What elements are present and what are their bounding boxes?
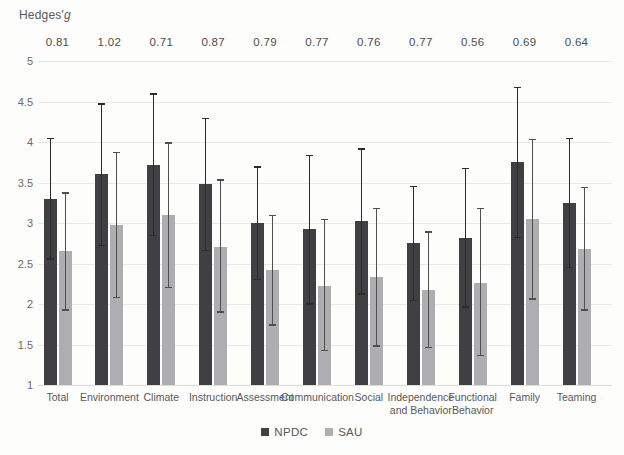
errorbar-npdc-environment [101, 103, 102, 246]
effect-size-value-climate: 0.71 [133, 36, 189, 48]
errorbar-cap-bottom-sau-teaming [581, 309, 588, 311]
errorbar-cap-top-npdc-assessment [254, 166, 261, 168]
errorbar-npdc-assessment [257, 166, 258, 279]
errorbar-sau-total [65, 192, 66, 310]
legend: NPDC SAU [0, 426, 624, 438]
effect-size-value-instruction: 0.87 [185, 36, 241, 48]
errorbar-cap-bottom-npdc-assessment [254, 279, 261, 281]
errorbar-npdc-family [517, 87, 518, 238]
errorbar-cap-top-npdc-teaming [566, 138, 573, 140]
errorbar-cap-bottom-npdc-independence-and-behavior [410, 300, 417, 302]
errorbar-cap-top-npdc-functional-behavior [462, 168, 469, 170]
errorbar-cap-bottom-npdc-teaming [566, 267, 573, 269]
errorbar-sau-environment [116, 152, 117, 298]
errorbar-cap-bottom-sau-assessment [269, 324, 276, 326]
x-axis-label-teaming: Teaming [541, 391, 613, 404]
legend-swatch-npdc [261, 428, 269, 436]
errorbar-cap-top-sau-functional-behavior [477, 208, 484, 210]
effect-size-value-assessment: 0.79 [237, 36, 293, 48]
errorbar-sau-assessment [272, 215, 273, 325]
errorbar-cap-top-sau-total [62, 192, 69, 194]
errorbar-cap-bottom-sau-environment [113, 297, 120, 299]
errorbar-npdc-instruction [205, 118, 206, 251]
errorbar-cap-top-sau-climate [165, 142, 172, 144]
gridline-y4.5 [38, 102, 612, 103]
plot-area: 54.543.532.521.510.811.020.710.870.790.7… [0, 0, 624, 455]
errorbar-cap-top-npdc-family [514, 87, 521, 89]
errorbar-cap-top-npdc-climate [150, 93, 157, 95]
errorbar-sau-instruction [220, 179, 221, 312]
errorbar-cap-bottom-sau-total [62, 309, 69, 311]
effect-size-value-independence-and-behavior: 0.77 [393, 36, 449, 48]
y-axis-tick-label-3: 3 [0, 217, 33, 229]
y-axis-tick-label-3.5: 3.5 [0, 177, 33, 189]
errorbar-npdc-social [361, 148, 362, 294]
errorbar-cap-top-npdc-total [47, 138, 54, 140]
effect-size-value-functional-behavior: 0.56 [445, 36, 501, 48]
gridline-y5 [38, 61, 612, 62]
errorbar-sau-social [376, 208, 377, 347]
chart-figure: Hedges'g 54.543.532.521.510.811.020.710.… [0, 0, 624, 455]
errorbar-cap-bottom-npdc-environment [98, 245, 105, 247]
errorbar-npdc-functional-behavior [465, 168, 466, 307]
y-axis-tick-label-2.5: 2.5 [0, 258, 33, 270]
y-axis-tick-label-1: 1 [0, 379, 33, 391]
effect-size-value-total: 0.81 [30, 36, 86, 48]
errorbar-cap-top-sau-instruction [217, 179, 224, 181]
errorbar-sau-teaming [584, 187, 585, 311]
errorbar-cap-bottom-sau-instruction [217, 311, 224, 313]
effect-size-value-communication: 0.77 [289, 36, 345, 48]
legend-item-npdc: NPDC [261, 426, 308, 438]
y-axis-tick-label-4: 4 [0, 136, 33, 148]
gridline-y1 [38, 385, 612, 386]
errorbar-cap-bottom-sau-communication [321, 350, 328, 352]
errorbar-cap-top-npdc-social [358, 148, 365, 150]
errorbar-cap-bottom-sau-independence-and-behavior [425, 347, 432, 349]
errorbar-cap-top-sau-assessment [269, 215, 276, 217]
errorbar-cap-top-npdc-independence-and-behavior [410, 186, 417, 188]
errorbar-cap-bottom-npdc-instruction [202, 250, 209, 252]
errorbar-cap-bottom-npdc-total [47, 258, 54, 260]
errorbar-npdc-teaming [569, 138, 570, 268]
gridline-y4 [38, 142, 612, 143]
effect-size-value-family: 0.69 [497, 36, 553, 48]
errorbar-cap-bottom-sau-social [373, 345, 380, 347]
effect-size-value-teaming: 0.64 [549, 36, 605, 48]
y-axis-tick-label-4.5: 4.5 [0, 96, 33, 108]
errorbar-cap-bottom-npdc-climate [150, 235, 157, 237]
errorbar-npdc-communication [309, 155, 310, 304]
legend-item-sau: SAU [325, 426, 363, 438]
legend-label-npdc: NPDC [274, 426, 308, 438]
errorbar-cap-bottom-npdc-social [358, 293, 365, 295]
effect-size-value-social: 0.76 [341, 36, 397, 48]
errorbar-sau-independence-and-behavior [428, 231, 429, 348]
errorbar-cap-top-sau-independence-and-behavior [425, 231, 432, 233]
errorbar-cap-top-npdc-environment [98, 103, 105, 105]
legend-swatch-sau [325, 428, 333, 436]
errorbar-cap-top-sau-communication [321, 219, 328, 221]
errorbar-cap-top-sau-teaming [581, 187, 588, 189]
errorbar-cap-top-sau-social [373, 208, 380, 210]
errorbar-npdc-climate [153, 93, 154, 236]
y-axis-tick-label-5: 5 [0, 55, 33, 67]
errorbar-cap-bottom-npdc-communication [306, 303, 313, 305]
errorbar-sau-functional-behavior [480, 208, 481, 356]
gridline-y3.5 [38, 183, 612, 184]
errorbar-cap-top-npdc-instruction [202, 118, 209, 120]
legend-label-sau: SAU [338, 426, 363, 438]
errorbar-sau-communication [324, 219, 325, 351]
errorbar-cap-bottom-npdc-functional-behavior [462, 306, 469, 308]
errorbar-sau-climate [168, 142, 169, 288]
errorbar-npdc-total [50, 138, 51, 260]
errorbar-cap-top-sau-family [529, 139, 536, 141]
errorbar-cap-bottom-npdc-family [514, 237, 521, 239]
effect-size-value-environment: 1.02 [81, 36, 137, 48]
errorbar-cap-bottom-sau-family [529, 298, 536, 300]
errorbar-cap-bottom-sau-functional-behavior [477, 355, 484, 357]
errorbar-sau-family [532, 139, 533, 299]
errorbar-cap-top-sau-environment [113, 152, 120, 154]
errorbar-cap-bottom-sau-climate [165, 287, 172, 289]
errorbar-cap-top-npdc-communication [306, 155, 313, 157]
y-axis-tick-label-1.5: 1.5 [0, 339, 33, 351]
y-axis-tick-label-2: 2 [0, 298, 33, 310]
